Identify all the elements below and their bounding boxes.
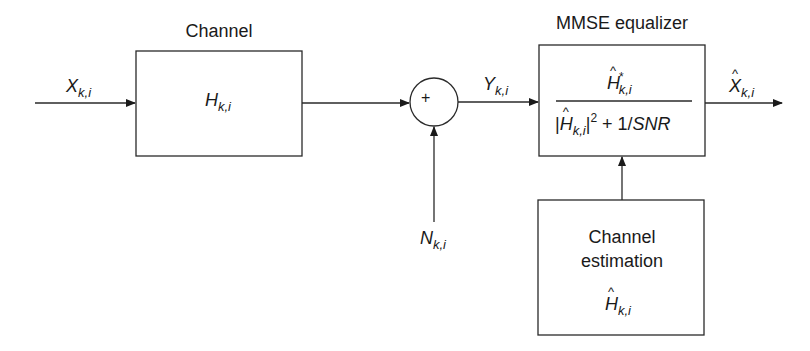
- received-label: Yk,i: [483, 74, 508, 98]
- diagram-canvas: [0, 0, 810, 351]
- estimation-output-label: Hk,i: [605, 294, 631, 318]
- estimation-title-line2: estimation: [581, 251, 663, 272]
- estimation-title-line1: Channel: [588, 227, 655, 248]
- noise-label: Nk,i: [420, 228, 446, 252]
- summing-junction: [410, 78, 458, 126]
- summing-plus: +: [421, 89, 430, 107]
- input-label: Xk,i: [66, 76, 91, 100]
- equalizer-numerator: H*k,i: [607, 70, 632, 97]
- equalizer-title: MMSE equalizer: [556, 13, 688, 34]
- channel-block-label: Hk,i: [205, 90, 231, 114]
- equalizer-denominator: |Hk,i|2 + 1/SNR: [555, 111, 671, 138]
- channel-title: Channel: [185, 21, 252, 42]
- output-label: Xk,i: [729, 76, 754, 100]
